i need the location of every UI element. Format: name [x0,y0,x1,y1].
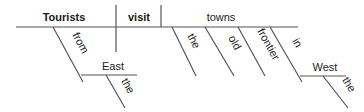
sentence-diagram: Tourists visit towns from East the the o… [0,0,364,112]
word-frontier: frontier [255,26,282,62]
word-verb: visit [128,11,150,23]
word-east: East [102,60,124,72]
word-the-west: the [340,75,358,94]
word-subject: Tourists [43,11,86,23]
word-old: old [226,33,244,52]
word-west: West [313,61,338,73]
word-the-east: the [119,76,137,95]
word-from: from [70,30,91,55]
word-object: towns [207,11,236,23]
modifier-line-old [205,27,234,76]
word-in: in [290,36,305,49]
word-the: the [185,31,203,50]
